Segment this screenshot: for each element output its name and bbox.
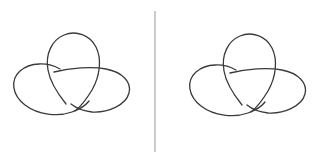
figure-root: Two knot diagrams separated by a vertica… <box>0 0 321 162</box>
knot-diagram-canvas <box>0 0 321 162</box>
